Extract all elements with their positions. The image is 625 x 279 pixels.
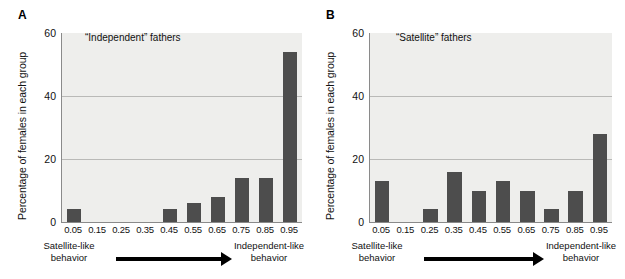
- panel-a-xtick-row: 0.050.150.250.350.450.550.650.750.850.95: [61, 224, 301, 235]
- bar-0.35: [447, 172, 462, 222]
- bar-0.55: [187, 203, 201, 222]
- bar-0.55: [496, 181, 511, 222]
- bar-slot: [564, 33, 588, 222]
- right-arrow-head-icon: [533, 252, 544, 266]
- xtick-label: 0.05: [369, 224, 393, 235]
- panel-a-letter: A: [18, 8, 27, 22]
- bar-slot: [443, 33, 467, 222]
- panel-a-caption-left: Satellite-like behavior: [30, 240, 108, 264]
- bar-slot: [230, 33, 254, 222]
- panel-a-ytick-20: 20: [30, 153, 56, 165]
- panel-a-ytick-60: 60: [30, 27, 56, 39]
- panel-b-ytick-40: 40: [338, 90, 364, 102]
- bar-0.05: [67, 209, 81, 222]
- panel-a-plot-area: [61, 33, 302, 223]
- bar-0.75: [235, 178, 249, 222]
- panel-a-bars: [62, 33, 302, 222]
- bar-slot: [491, 33, 515, 222]
- panel-a: A Percentage of females in each group 60…: [0, 0, 312, 279]
- xtick-label: 0.75: [229, 224, 253, 235]
- panel-b-ytick-20: 20: [338, 153, 364, 165]
- bar-0.65: [211, 197, 225, 222]
- xtick-label: 0.25: [109, 224, 133, 235]
- xtick-label: 0.35: [133, 224, 157, 235]
- xtick-label: 0.55: [181, 224, 205, 235]
- xtick-label: 0.65: [205, 224, 229, 235]
- panel-b-caption-row: Satellite-like behavior Independent-like…: [338, 240, 620, 276]
- panel-a-annotation: “Independent” fathers: [85, 32, 181, 43]
- bar-0.95: [593, 134, 608, 222]
- xtick-label: 0.35: [442, 224, 466, 235]
- bar-slot: [539, 33, 563, 222]
- bar-0.75: [544, 209, 559, 222]
- panel-b-xtick-row: 0.050.150.250.350.450.550.650.750.850.95: [369, 224, 611, 235]
- bar-0.95: [283, 52, 297, 222]
- bar-slot: [86, 33, 110, 222]
- xtick-label: 0.95: [587, 224, 611, 235]
- bar-slot: [278, 33, 302, 222]
- xtick-label: 0.55: [490, 224, 514, 235]
- bar-slot: [370, 33, 394, 222]
- panel-b-ytick-0: 0: [338, 216, 364, 228]
- panel-a-caption-row: Satellite-like behavior Independent-like…: [30, 240, 308, 276]
- right-arrow-icon: [424, 257, 538, 261]
- bar-slot: [206, 33, 230, 222]
- panel-b-bars: [370, 33, 612, 222]
- bar-0.85: [568, 191, 583, 223]
- xtick-label: 0.75: [538, 224, 562, 235]
- panel-b: B Percentage of females in each group 60…: [312, 0, 625, 279]
- panel-a-ytick-40: 40: [30, 90, 56, 102]
- bar-0.65: [520, 191, 535, 223]
- xtick-label: 0.65: [514, 224, 538, 235]
- bar-slot: [158, 33, 182, 222]
- bar-slot: [254, 33, 278, 222]
- bar-0.25: [423, 209, 438, 222]
- panel-a-y-axis-title: Percentage of females in each group: [16, 52, 28, 220]
- xtick-label: 0.15: [85, 224, 109, 235]
- bar-0.45: [472, 191, 487, 223]
- xtick-label: 0.15: [393, 224, 417, 235]
- bar-slot: [394, 33, 418, 222]
- panel-b-arrow: [416, 240, 542, 270]
- xtick-label: 0.95: [277, 224, 301, 235]
- bar-slot: [182, 33, 206, 222]
- xtick-label: 0.05: [61, 224, 85, 235]
- panel-b-annotation: “Satellite” fathers: [396, 32, 472, 43]
- xtick-label: 0.25: [417, 224, 441, 235]
- xtick-label: 0.85: [253, 224, 277, 235]
- right-arrow-head-icon: [221, 252, 232, 266]
- panel-a-ytick-0: 0: [30, 216, 56, 228]
- right-arrow-icon: [116, 257, 226, 261]
- panel-b-caption-left: Satellite-like behavior: [338, 240, 416, 264]
- bar-slot: [515, 33, 539, 222]
- panel-b-plot-area: [369, 33, 612, 223]
- panel-b-y-axis-title: Percentage of females in each group: [324, 52, 336, 220]
- bar-0.45: [163, 209, 177, 222]
- panel-b-letter: B: [326, 8, 335, 22]
- bar-slot: [110, 33, 134, 222]
- bar-0.05: [375, 181, 390, 222]
- bar-slot: [588, 33, 612, 222]
- xtick-label: 0.85: [563, 224, 587, 235]
- bar-slot: [62, 33, 86, 222]
- bar-slot: [134, 33, 158, 222]
- figure-container: A Percentage of females in each group 60…: [0, 0, 625, 279]
- xtick-label: 0.45: [466, 224, 490, 235]
- panel-a-caption-right: Independent-like behavior: [230, 240, 308, 264]
- bar-0.85: [259, 178, 273, 222]
- panel-a-arrow: [108, 240, 230, 270]
- panel-b-caption-right: Independent-like behavior: [542, 240, 620, 264]
- panel-b-ytick-60: 60: [338, 27, 364, 39]
- bar-slot: [467, 33, 491, 222]
- xtick-label: 0.45: [157, 224, 181, 235]
- bar-slot: [418, 33, 442, 222]
